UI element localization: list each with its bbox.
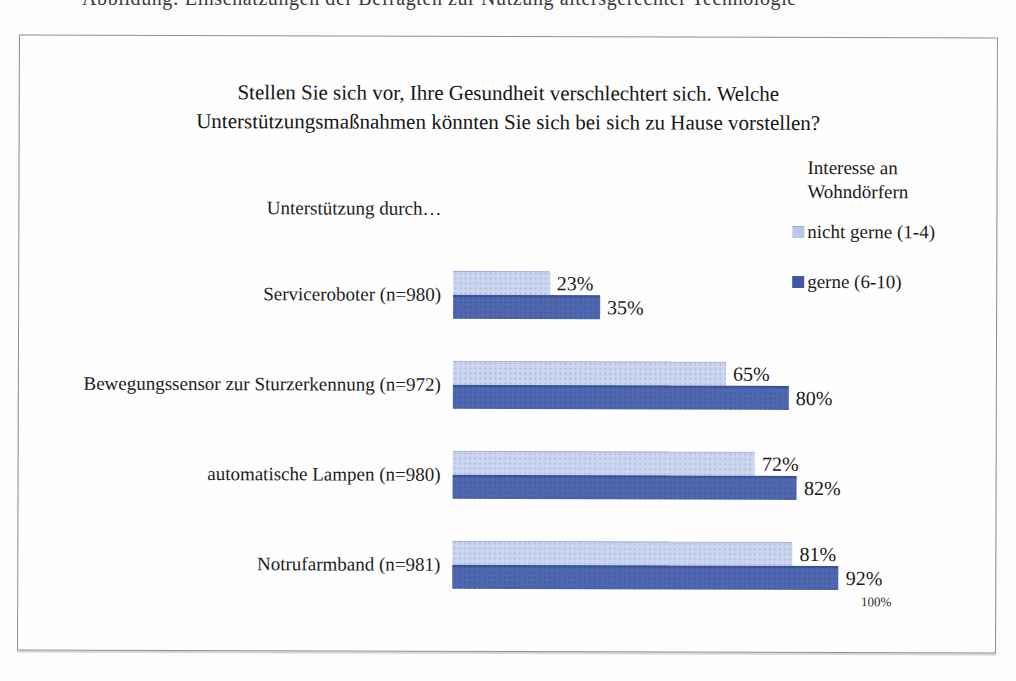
value-label: 92% (846, 567, 883, 590)
legend-label-nicht-gerne: nicht gerne (1-4) (807, 220, 935, 244)
value-label: 81% (799, 542, 836, 565)
legend-label-gerne: gerne (6-10) (807, 270, 902, 294)
legend-title-line2: Wohndörfern (807, 180, 999, 205)
figure-frame: Stellen Sie sich vor, Ihre Gesundheit ve… (17, 34, 998, 653)
chart-title-line1: Stellen Sie sich vor, Ihre Gesundheit ve… (20, 77, 997, 109)
bar-row-notrufarmband-nicht-gerne: 81% (452, 541, 872, 566)
x-axis-max-tick: 100% (844, 594, 908, 610)
bar-row-bewegungssensor-gerne: 80% (453, 385, 873, 410)
value-label: 72% (762, 452, 799, 475)
chart-title: Stellen Sie sich vor, Ihre Gesundheit ve… (20, 77, 997, 138)
legend-title-line1: Interesse an (808, 156, 1000, 181)
value-label: 23% (557, 272, 594, 295)
value-label: 82% (804, 476, 841, 499)
bar-dark-bewegungssensor (453, 385, 789, 410)
value-label: 65% (733, 362, 770, 385)
bar-row-serviceroboter-gerne: 35% (453, 295, 873, 320)
bar-light-notrufarmband (452, 541, 792, 566)
bar-row-lampen-nicht-gerne: 72% (453, 451, 873, 476)
chart-title-line2: Unterstützungsmaßnahmen könnten Sie sich… (20, 106, 997, 138)
legend-swatch-dark-icon (792, 276, 804, 288)
bar-row-notrufarmband-gerne: 92% (452, 565, 872, 590)
legend-swatch-light-icon (792, 226, 804, 238)
category-label-bewegungssensor: Bewegungssensor zur Sturzerkennung (n=97… (29, 371, 441, 396)
category-axis-label: Unterstützung durch… (29, 195, 441, 220)
value-label: 80% (796, 386, 833, 409)
category-label-notrufarmband: Notrufarmband (n=981) (28, 551, 440, 576)
category-label-automatische-lampen: automatische Lampen (n=980) (29, 461, 441, 486)
category-label-serviceroboter: Serviceroboter (n=980) (29, 281, 441, 306)
bar-row-lampen-gerne: 82% (453, 475, 873, 500)
bar-dark-serviceroboter (453, 295, 600, 319)
legend-title: Interesse an Wohndörfern (789, 156, 999, 205)
bar-dark-notrufarmband (452, 565, 838, 590)
bar-dark-lampen (453, 475, 797, 500)
value-label: 35% (607, 296, 644, 319)
cropped-text-line: Abbildung: Einschätzungen der Befragten … (82, 0, 797, 10)
bar-light-serviceroboter (453, 271, 550, 295)
bar-light-bewegungssensor (453, 361, 726, 386)
legend: Interesse an Wohndörfern nicht gerne (1-… (789, 156, 999, 205)
bar-light-lampen (453, 451, 755, 476)
bar-row-bewegungssensor-nicht-gerne: 65% (453, 361, 873, 386)
page-top-cropped-text: Abbildung: Einschätzungen der Befragten … (82, 0, 942, 12)
